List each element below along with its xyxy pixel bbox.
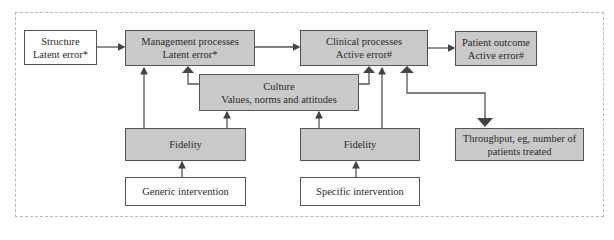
node-fidelity-right-title: Fidelity xyxy=(344,138,377,151)
node-fidelity-left: Fidelity xyxy=(125,128,246,161)
node-culture-title: Culture xyxy=(263,80,295,93)
node-clinical-title: Clinical processes xyxy=(326,35,402,48)
node-throughput-line1: Throughput, eg, number of xyxy=(463,132,576,145)
node-culture-subtitle: Values, norms and attitudes xyxy=(221,93,336,106)
node-clinical-subtitle: Active error# xyxy=(336,48,392,61)
node-fidelity-left-title: Fidelity xyxy=(169,138,202,151)
node-management-title: Management processes xyxy=(141,35,239,48)
arrowhead-culture-management xyxy=(182,66,194,73)
node-specific-intervention: Specific intervention xyxy=(300,177,420,206)
node-structure-title: Structure xyxy=(41,35,80,48)
node-outcome-title: Patient outcome xyxy=(462,36,530,49)
node-management-processes: Management processes Latent error* xyxy=(125,30,255,66)
node-throughput-line2: patients treated xyxy=(488,145,552,158)
node-generic-intervention: Generic intervention xyxy=(125,177,246,206)
node-clinical-processes: Clinical processes Active error# xyxy=(300,30,428,66)
node-patient-outcome: Patient outcome Active error# xyxy=(455,31,537,66)
arrowhead-clinical-throughput xyxy=(477,118,493,127)
node-outcome-subtitle: Active error# xyxy=(468,49,524,62)
node-culture: Culture Values, norms and attitudes xyxy=(199,74,359,111)
node-fidelity-right: Fidelity xyxy=(300,128,420,161)
node-structure: Structure Latent error* xyxy=(24,30,97,65)
node-management-subtitle: Latent error* xyxy=(162,48,217,61)
node-throughput: Throughput, eg, number of patients treat… xyxy=(455,128,584,161)
node-structure-subtitle: Latent error* xyxy=(33,48,88,61)
node-specific-title: Specific intervention xyxy=(316,185,404,198)
arrowhead-throughput-clinical xyxy=(400,66,414,73)
node-generic-title: Generic intervention xyxy=(142,185,229,198)
arrowhead-culture-clinical xyxy=(363,66,375,73)
